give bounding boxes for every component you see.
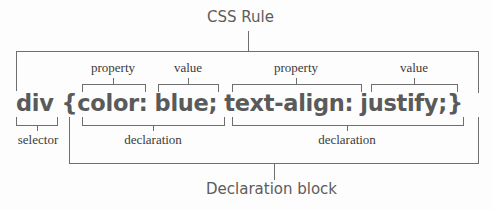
- selector-bracket-tick: [37, 125, 38, 131]
- property-label-1: property: [91, 60, 135, 76]
- value-label-2: value: [400, 60, 428, 76]
- declaration-bracket-2-right: [463, 117, 464, 125]
- declaration-1-property: color:: [77, 90, 147, 116]
- property-label-2: property: [274, 60, 318, 76]
- property-bracket-2-tick: [296, 78, 297, 84]
- declaration-label-1: declaration: [124, 132, 182, 148]
- value-label-1: value: [174, 60, 202, 76]
- value-bracket-1-tick: [188, 78, 189, 84]
- value-bracket-2: [371, 84, 458, 85]
- declaration-bracket-1-right: [224, 117, 225, 125]
- selector-bracket-left: [16, 117, 17, 125]
- selector-label: selector: [18, 132, 58, 148]
- declaration-bracket-2: [232, 125, 464, 126]
- declaration-block-bracket-right: [478, 117, 479, 164]
- declaration-block-tick: [274, 163, 275, 180]
- property-bracket-1: [82, 84, 146, 85]
- css-rule-title: CSS Rule: [207, 8, 274, 26]
- declaration-bracket-2-left: [232, 117, 233, 125]
- value-bracket-1: [158, 84, 219, 85]
- property-bracket-2: [232, 84, 362, 85]
- open-brace: {: [62, 90, 78, 116]
- property-bracket-1-tick: [113, 78, 114, 84]
- declaration-bracket-1-left: [82, 117, 83, 125]
- declaration-2-value: justify;: [360, 90, 447, 116]
- css-rule-diagram: CSS Rule property value property value d…: [0, 0, 492, 210]
- declaration-2-property: text-align:: [224, 90, 353, 116]
- css-rule-bracket-left: [16, 51, 17, 91]
- declaration-bracket-1-tick: [153, 125, 154, 131]
- css-code-line: div{color:blue;text-align:justify;}: [16, 90, 463, 116]
- selector-bracket-right: [57, 117, 58, 125]
- declaration-block-label: Declaration block: [206, 180, 337, 198]
- css-rule-bracket-top: [16, 51, 479, 52]
- declaration-bracket-2-tick: [347, 125, 348, 131]
- declaration-block-bracket-left: [69, 117, 70, 164]
- css-rule-bracket-right: [478, 51, 479, 93]
- value-bracket-2-tick: [414, 78, 415, 84]
- selector-text: div: [16, 90, 54, 116]
- close-brace: }: [447, 90, 463, 116]
- declaration-1-value: blue;: [155, 90, 218, 116]
- css-rule-tick: [248, 31, 249, 51]
- declaration-label-2: declaration: [318, 132, 376, 148]
